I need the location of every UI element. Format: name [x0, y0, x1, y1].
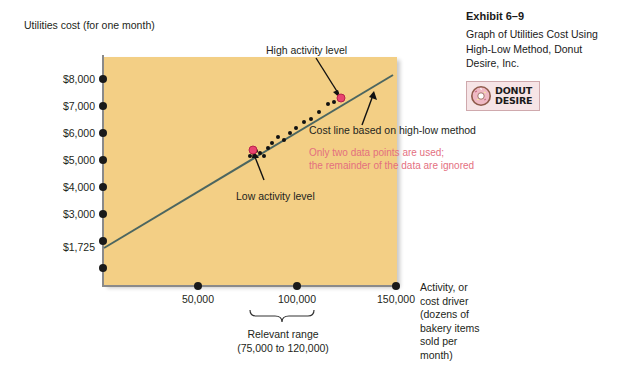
x-tick-label-150000: 150,000 — [377, 293, 415, 305]
note-line-1: Only two data points are used; — [309, 146, 444, 159]
y-tick-2000 — [99, 237, 107, 245]
y-tick-label-4000: $4,000 — [63, 181, 95, 193]
y-tick-label-5000: $5,000 — [63, 154, 95, 166]
x-axis-caption-line6: month) — [420, 349, 515, 363]
data-point — [302, 120, 306, 124]
x-tick-label-100000: 100,000 — [278, 293, 316, 305]
y-tick-4000 — [99, 183, 107, 191]
relevant-range-detail: (75,000 to 120,000) — [183, 341, 383, 355]
x-axis-caption-line5: sold per — [420, 335, 515, 349]
y-tick-6000 — [99, 129, 107, 137]
x-axis-line — [102, 285, 399, 287]
logo-text-line1: DONUT — [495, 86, 532, 96]
low-activity-label: Low activity level — [236, 190, 315, 202]
y-tick-label-3000: $3,000 — [63, 208, 95, 220]
x-axis-caption-line3: (dozens of — [420, 308, 515, 322]
y-tick-label-1725: $1,725 — [63, 241, 95, 253]
x-axis-caption: Activity, or cost driver (dozens of bake… — [420, 281, 515, 362]
note-line-2: the remainder of the data are ignored — [309, 159, 474, 172]
data-point — [270, 141, 274, 145]
x-tick-150000 — [392, 282, 400, 290]
data-point — [288, 131, 292, 135]
data-point — [266, 146, 270, 150]
donut-icon — [470, 85, 492, 107]
y-tick-label-7000: $7,000 — [63, 100, 95, 112]
chart-title: Utilities cost (for one month) — [24, 19, 155, 31]
x-axis-caption-line1: Activity, or — [420, 281, 515, 295]
low-activity-point — [249, 146, 258, 155]
y-tick-8000 — [99, 75, 107, 83]
cost-line-label: Cost line based on high-low method — [309, 124, 476, 136]
x-axis-caption-line4: bakery items — [420, 322, 515, 336]
data-point — [294, 126, 298, 130]
x-tick-100000 — [293, 282, 301, 290]
exhibit-number: Exhibit 6–9 — [466, 10, 616, 22]
y-tick-7000 — [99, 102, 107, 110]
exhibit-page: Utilities cost (for one month) $8,000 $7… — [0, 0, 626, 376]
y-tick-5000 — [99, 156, 107, 164]
donut-desire-logo: DONUT DESIRE — [466, 81, 540, 111]
y-tick-3000 — [99, 210, 107, 218]
x-tick-label-50000: 50,000 — [182, 293, 214, 305]
logo-text-line2: DESIRE — [495, 96, 532, 106]
data-point — [332, 100, 336, 104]
relevant-range-label: Relevant range — [183, 327, 383, 341]
y-axis-line — [102, 55, 104, 287]
logo-text: DONUT DESIRE — [495, 86, 532, 106]
x-axis-caption-line2: cost driver — [420, 295, 515, 309]
data-point — [262, 154, 266, 158]
exhibit-description: Graph of Utilities Cost Using High-Low M… — [466, 27, 616, 71]
exhibit-block: Exhibit 6–9 Graph of Utilities Cost Usin… — [466, 10, 616, 111]
data-point — [282, 138, 286, 142]
high-activity-label: High activity level — [266, 44, 347, 56]
x-tick-50000 — [194, 282, 202, 290]
y-tick-label-8000: $8,000 — [63, 73, 95, 85]
data-point — [326, 102, 330, 106]
relevant-range-brace — [250, 310, 314, 322]
data-point — [276, 135, 280, 139]
data-point — [309, 117, 313, 121]
y-tick-1000 — [99, 264, 107, 272]
data-point — [248, 154, 252, 158]
y-tick-label-6000: $6,000 — [63, 127, 95, 139]
data-point — [317, 110, 321, 114]
high-activity-point — [337, 94, 346, 103]
relevant-range-caption: Relevant range (75,000 to 120,000) — [183, 327, 383, 355]
